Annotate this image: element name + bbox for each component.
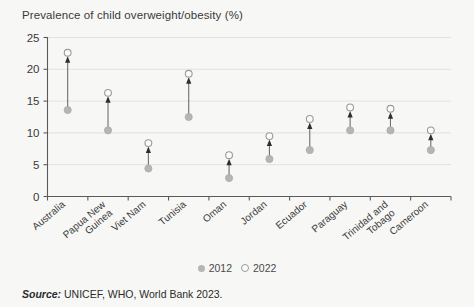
x-axis-label: Jordan (238, 199, 268, 227)
datapoint-pair (145, 140, 152, 172)
x-axis-label: Papua NewGuinea (61, 198, 115, 249)
y-axis-tick-label: 15 (27, 95, 40, 107)
datapoint-2012 (266, 155, 273, 162)
datapoint-2022 (105, 89, 112, 96)
change-arrow-head-icon (186, 77, 191, 84)
datapoint-2022 (185, 70, 192, 77)
y-axis-tick-label: 20 (27, 63, 40, 75)
datapoint-2012 (427, 146, 434, 153)
change-arrow-head-icon (428, 134, 433, 141)
x-axis-label-line: Oman (200, 199, 228, 225)
change-arrow-head-icon (348, 111, 353, 118)
y-axis-tick-label: 5 (33, 159, 39, 171)
x-axis-label: Ecuador (273, 198, 309, 231)
change-arrow-head-icon (146, 147, 151, 154)
datapoint-2012 (64, 106, 71, 113)
chart-legend: 2012 2022 (0, 262, 474, 274)
y-axis-tick-label: 0 (33, 191, 39, 203)
datapoint-2012 (225, 174, 232, 181)
x-axis-labels-group: AustraliaPapua NewGuineaViet NamTunisiaO… (30, 198, 430, 251)
datapoint-2012 (145, 165, 152, 172)
datapoint-pair (104, 89, 111, 134)
datapoint-2022 (226, 152, 233, 159)
source-label: Source: (22, 288, 61, 300)
datapoint-pair (427, 127, 434, 154)
x-axis-label: Viet Nam (109, 199, 147, 234)
datapoint-2012 (104, 127, 111, 134)
legend-item-2012: 2012 (198, 262, 232, 274)
x-axis-label: Paraguay (310, 199, 350, 235)
x-axis-label: Trinidad andTobago (340, 198, 397, 251)
datapoint-2022 (266, 133, 273, 140)
x-axis-label-line: Paraguay (310, 199, 350, 235)
y-axis-tick-label: 25 (27, 32, 40, 44)
source-note: Source: UNICEF, WHO, World Bank 2023. (22, 288, 223, 300)
datapoint-pair (225, 152, 232, 182)
datapoint-2012 (347, 127, 354, 134)
datapoint-pair (306, 116, 313, 154)
x-axis-label: Oman (200, 199, 228, 225)
x-axis-label: Australia (30, 198, 67, 232)
datapoint-2022 (64, 49, 71, 56)
x-axis-label-line: Viet Nam (109, 199, 147, 234)
datapoint-2012 (387, 127, 394, 134)
y-axis-tick-label: 10 (27, 127, 40, 139)
x-axis-ticks-group (48, 197, 452, 201)
change-arrow-head-icon (267, 140, 272, 147)
datapoint-pair (266, 133, 273, 163)
dumbbell-chart-svg: 0510152025 AustraliaPapua NewGuineaViet … (0, 0, 474, 307)
datapoint-2022 (306, 116, 313, 123)
legend-item-2022: 2022 (241, 262, 276, 274)
change-arrow-head-icon (388, 112, 393, 119)
change-arrow-head-icon (226, 159, 231, 166)
legend-label-2022: 2022 (253, 262, 276, 274)
legend-label-2012: 2012 (209, 262, 232, 274)
x-axis-label-line: Jordan (238, 199, 268, 227)
x-axis-label-line: Australia (30, 198, 67, 232)
y-axis-ticks-group: 0510152025 (27, 32, 48, 203)
x-axis-label-line: Ecuador (273, 198, 309, 231)
datapoint-2012 (306, 146, 313, 153)
datapoint-2022 (427, 127, 434, 134)
datapoint-pair (64, 49, 71, 113)
change-arrow-head-icon (307, 122, 312, 129)
datapoint-pair (387, 105, 394, 134)
datapoint-pair (347, 104, 354, 134)
source-text: UNICEF, WHO, World Bank 2023. (64, 288, 223, 300)
datapoint-2022 (347, 104, 354, 111)
change-arrow-head-icon (65, 56, 70, 63)
legend-swatch-2022-icon (241, 264, 249, 272)
x-axis-label: Tunisia (157, 198, 189, 227)
datapoint-2012 (185, 113, 192, 120)
datapoint-pair (185, 70, 192, 120)
chart-plot-area: 0510152025 AustraliaPapua NewGuineaViet … (0, 0, 474, 307)
datapoint-2022 (145, 140, 152, 147)
x-axis-label-line: Tunisia (157, 198, 189, 227)
legend-swatch-2012-icon (198, 265, 205, 272)
change-arrow-head-icon (105, 96, 110, 103)
datapoint-2022 (387, 105, 394, 112)
